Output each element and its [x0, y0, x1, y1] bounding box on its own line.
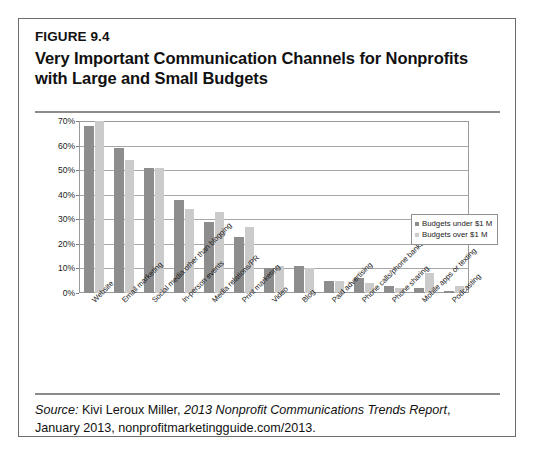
figure-header: FIGURE 9.4 Very Important Communication … [35, 29, 475, 88]
bar [125, 160, 135, 293]
y-tick-label: 40% [58, 190, 75, 200]
bar [384, 286, 394, 293]
bar-group [109, 121, 139, 293]
header-divider [35, 111, 500, 113]
legend-swatch-icon [415, 222, 419, 226]
bar-group [289, 121, 319, 293]
figure-title: Very Important Communication Channels fo… [35, 48, 475, 88]
y-tick-label: 0% [63, 288, 75, 298]
figure-title-line-2: with Large and Small Budgets [35, 69, 268, 87]
figure-title-line-1: Very Important Communication Channels fo… [35, 49, 468, 67]
y-axis: 0%10%20%30%40%50%60%70% [35, 121, 75, 293]
legend-swatch-icon [415, 233, 419, 237]
source-divider [35, 393, 500, 395]
bar [414, 288, 424, 293]
legend-label: Budgets under $1 M [422, 218, 492, 229]
source-label: Source: [35, 403, 78, 417]
bar [95, 121, 105, 293]
bar-chart: 0%10%20%30%40%50%60%70% WebsiteEmail mar… [35, 117, 501, 387]
y-tick-mark [76, 293, 79, 294]
source-author: Kivi Leroux Miller, [78, 403, 184, 417]
bar [324, 281, 334, 293]
bar [84, 126, 94, 293]
y-tick-label: 10% [58, 263, 75, 273]
y-tick-label: 30% [58, 214, 75, 224]
bar [294, 266, 304, 293]
x-axis: WebsiteEmail marketingSocial media other… [79, 295, 469, 387]
source-report-title: 2013 Nonprofit Communications Trends Rep… [184, 403, 447, 417]
legend-label: Budgets over $1 M [422, 229, 487, 240]
chart-legend: Budgets under $1 MBudgets over $1 M [411, 214, 498, 245]
y-tick-label: 20% [58, 239, 75, 249]
source-note: Source: Kivi Leroux Miller, 2013 Nonprof… [35, 401, 495, 438]
bar [185, 209, 195, 293]
legend-item: Budgets over $1 M [415, 229, 492, 240]
figure-box: FIGURE 9.4 Very Important Communication … [18, 18, 516, 437]
legend-item: Budgets under $1 M [415, 218, 492, 229]
figure-number: FIGURE 9.4 [35, 29, 475, 46]
y-tick-label: 50% [58, 165, 75, 175]
bar-group [319, 121, 349, 293]
y-tick-label: 70% [58, 116, 75, 126]
bar-group [79, 121, 109, 293]
bar [444, 291, 454, 293]
bar [114, 148, 124, 293]
y-tick-label: 60% [58, 141, 75, 151]
